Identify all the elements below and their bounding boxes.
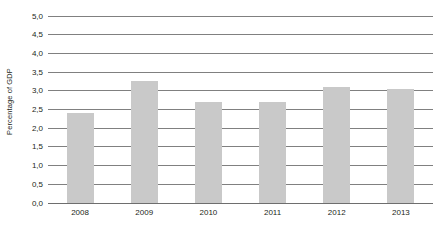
y-axis-title-label: Percentage of GDP (5, 68, 14, 135)
bar-series (48, 16, 433, 203)
bar (259, 102, 286, 203)
bar (323, 87, 350, 203)
y-axis-tick-label: 0,5 (32, 179, 43, 188)
y-axis-tick-label: 4,5 (32, 30, 43, 39)
x-axis-tick-label: 2008 (50, 208, 110, 217)
y-axis-tick-label: 1,0 (32, 161, 43, 170)
y-axis-title: Percentage of GDP (0, 0, 18, 203)
y-axis-tick-label: 0,0 (32, 198, 43, 207)
y-axis-tick-label: 5,0 (32, 11, 43, 20)
x-axis-tick-label: 2010 (178, 208, 238, 217)
y-axis-tick-label: 1,5 (32, 142, 43, 151)
plot-area: 0,00,51,01,52,02,53,03,54,04,55,0 (48, 16, 433, 203)
bar-chart: Percentage of GDP 0,00,51,01,52,02,53,03… (0, 0, 441, 236)
y-axis-tick-label: 2,5 (32, 105, 43, 114)
x-axis-tick-labels: 200820092010201120122013 (48, 208, 433, 224)
y-axis-tick-label: 2,0 (32, 123, 43, 132)
bar (387, 89, 414, 203)
x-axis-tick-label: 2011 (243, 208, 303, 217)
x-axis-tick-label: 2012 (307, 208, 367, 217)
y-axis-tick-label: 3,0 (32, 86, 43, 95)
bar (131, 81, 158, 203)
x-axis-tick-label: 2013 (371, 208, 431, 217)
y-axis-tick-label: 4,0 (32, 48, 43, 57)
x-axis-tick-label: 2009 (114, 208, 174, 217)
bar (195, 102, 222, 203)
bar (67, 113, 94, 203)
y-axis-tick-label: 3,5 (32, 67, 43, 76)
